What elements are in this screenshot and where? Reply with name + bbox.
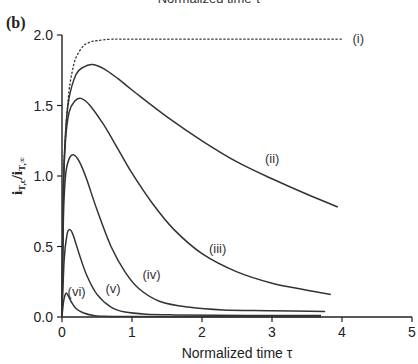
series-label-5: (v) — [105, 281, 120, 296]
series-label-6: (vi) — [68, 284, 86, 299]
y-tick-label: 1.0 — [34, 168, 54, 184]
x-axis-label: Normalized time τ — [182, 345, 293, 361]
series-label-1: (i) — [353, 31, 365, 46]
y-tick-label: 0.5 — [34, 239, 54, 255]
series-label-4: (iv) — [143, 267, 161, 282]
series-label-3: (iii) — [209, 241, 226, 256]
x-tick-label: 0 — [58, 324, 66, 340]
line-chart: 0123450.00.51.01.52.0 (i)(ii)(iii)(iv)(v… — [0, 0, 418, 364]
y-tick-label: 0.0 — [34, 309, 54, 325]
y-tick-label: 1.5 — [34, 98, 54, 114]
series-line-3 — [62, 98, 331, 317]
x-tick-label: 5 — [408, 324, 416, 340]
series-group — [62, 39, 342, 317]
svg-text:iT,c/iT,∞: iT,c/iT,∞ — [9, 157, 27, 195]
series-label-2: (ii) — [265, 151, 279, 166]
axes: 0123450.00.51.01.52.0 — [34, 27, 417, 340]
series-line-4 — [62, 155, 325, 317]
x-tick-label: 3 — [268, 324, 276, 340]
series-labels: (i)(ii)(iii)(iv)(v)(vi) — [68, 31, 364, 298]
x-tick-label: 4 — [338, 324, 346, 340]
series-line-2 — [62, 65, 338, 317]
y-axis-label: iT,c/iT,∞ — [9, 157, 27, 195]
x-tick-label: 2 — [198, 324, 206, 340]
series-line-6 — [62, 293, 321, 317]
y-tick-label: 2.0 — [34, 27, 54, 43]
x-tick-label: 1 — [128, 324, 136, 340]
series-line-5 — [62, 230, 321, 317]
series-line-1 — [62, 39, 342, 317]
